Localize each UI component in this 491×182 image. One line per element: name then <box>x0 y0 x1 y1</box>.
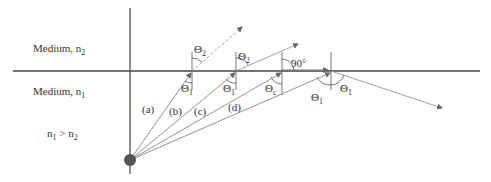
light-source-dot <box>124 154 136 166</box>
upper-medium-label: Medium, n2 <box>33 42 85 57</box>
ray-a-label: (a) <box>142 103 155 116</box>
total-internal-reflection-diagram: Medium, n2 Medium, n1 n1 > n2 (a) (b) (c… <box>0 0 491 182</box>
lower-medium-label: Medium, n1 <box>33 85 85 100</box>
arc-a-theta2 <box>192 58 202 62</box>
ray-d-label: (d) <box>228 101 241 114</box>
ray-c-label: (c) <box>194 105 207 118</box>
ray-b-incident-angle: Θ1 <box>223 82 235 97</box>
ray-b-refracted-angle: Θ2 <box>238 50 250 65</box>
index-condition-label: n1 > n2 <box>47 127 78 142</box>
ray-d-reflected-angle: Θ1 <box>340 82 352 97</box>
ray-b-label: (b) <box>169 105 182 118</box>
ray-a-incident-angle: Θ1 <box>181 82 193 97</box>
ray-c-refracted-angle: 90° <box>291 57 306 69</box>
ray-c-incident-angle: Θc <box>265 82 277 97</box>
ray-d-incident-angle: Θ1 <box>311 91 323 106</box>
ray-a-refracted-angle: Θ2 <box>194 43 206 58</box>
